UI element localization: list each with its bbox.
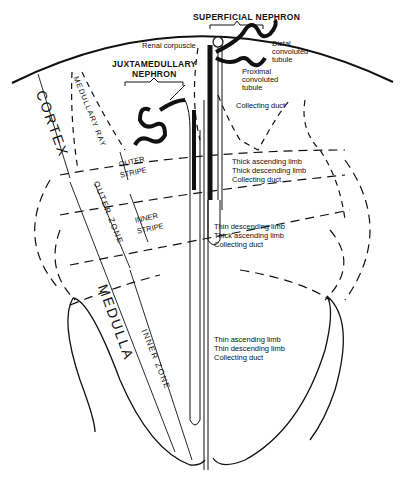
label-collecting-duct-2: Collecting duct <box>232 176 281 184</box>
label-thick-descending-1: Thick descending limb <box>232 167 306 175</box>
juxtamedullary-nephron <box>135 85 208 470</box>
label-proximal-3: tubule <box>242 84 262 92</box>
superficial-nephron-title: SUPERFICIAL NEPHRON <box>193 12 300 22</box>
juxtamedullary-bracket <box>125 78 183 86</box>
label-collecting-duct-1: Collecting duct <box>236 102 285 110</box>
nephron-diagram <box>0 0 400 482</box>
zone-boundaries <box>35 150 370 305</box>
superficial-nephron <box>208 20 276 245</box>
label-thick-ascending-2: Thick ascending limb <box>214 232 284 240</box>
label-collecting-duct-4: Collecting duct <box>214 354 263 362</box>
label-thin-ascending: Thin ascending limb <box>214 336 281 344</box>
label-thin-descending-2: Thin descending limb <box>214 345 285 353</box>
label-thin-descending-1: Thin descending limb <box>214 223 285 231</box>
kidney-capsule <box>12 36 393 83</box>
juxtamedullary-title-line2: NEPHRON <box>132 69 177 79</box>
label-thick-ascending-1: Thick ascending limb <box>232 158 302 166</box>
label-renal-corpuscle: Renal corpuscle <box>142 42 196 50</box>
juxtamedullary-title-line1: JUXTAMEDULLARY <box>112 59 196 69</box>
label-distal-3: tubule <box>272 56 292 64</box>
label-collecting-duct-3: Collecting duct <box>214 241 263 249</box>
